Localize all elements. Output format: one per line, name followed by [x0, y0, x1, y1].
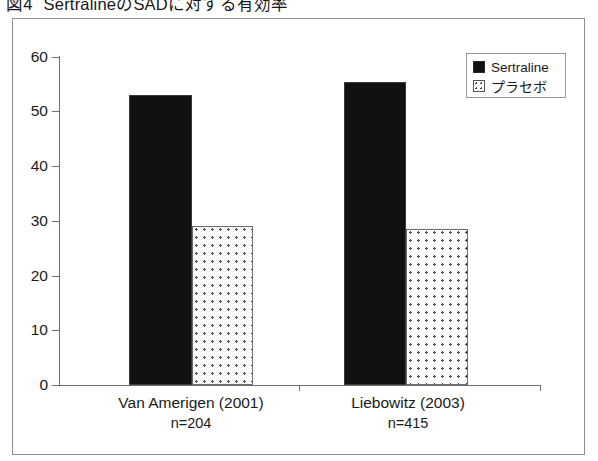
- y-tick-label-30: 30: [4, 212, 48, 230]
- y-tick-30: [52, 221, 60, 222]
- legend-item-sertraline: Sertraline: [473, 58, 559, 76]
- y-tick-label-50: 50: [4, 102, 48, 120]
- chart-legend: Sertraline プラセボ: [466, 53, 566, 98]
- y-tick-label-40: 40: [4, 157, 48, 175]
- y-tick-0: [52, 385, 60, 386]
- x-axis-line: [59, 385, 541, 386]
- x-tick-center: [299, 385, 300, 391]
- bar-van-amerigen-placebo: [192, 226, 253, 385]
- x-tick-right: [540, 385, 541, 391]
- y-tick-label-0: 0: [4, 376, 48, 394]
- y-tick-60: [52, 57, 60, 58]
- y-tick-label-10: 10: [4, 321, 48, 339]
- x-category-van-amerigen: Van Amerigen (2001) n=204: [95, 393, 287, 433]
- legend-swatch-solid-square-icon: [473, 61, 485, 73]
- legend-label-placebo: プラセボ: [491, 76, 547, 96]
- y-tick-10: [52, 330, 60, 331]
- legend-label-sertraline: Sertraline: [491, 60, 549, 75]
- x-category-liebowitz-n: n=415: [318, 413, 498, 433]
- x-category-van-amerigen-name: Van Amerigen (2001): [95, 393, 287, 413]
- figure-caption-number: 図4: [6, 0, 33, 13]
- figure-caption-title: SertralineのSADに対する有効率: [44, 0, 289, 13]
- y-tick-50: [52, 111, 60, 112]
- legend-item-placebo: プラセボ: [473, 77, 559, 95]
- y-tick-label-20: 20: [4, 267, 48, 285]
- x-category-van-amerigen-n: n=204: [95, 413, 287, 433]
- legend-swatch-dotted-square-icon: [473, 80, 485, 92]
- x-category-liebowitz-name: Liebowitz (2003): [318, 393, 498, 413]
- bar-liebowitz-sertraline: [344, 82, 406, 385]
- x-category-liebowitz: Liebowitz (2003) n=415: [318, 393, 498, 433]
- bar-liebowitz-placebo: [406, 229, 468, 385]
- figure-caption: 図4SertralineのSADに対する有効率: [6, 0, 288, 15]
- y-tick-40: [52, 166, 60, 167]
- y-tick-label-60: 60: [4, 48, 48, 66]
- y-tick-20: [52, 276, 60, 277]
- bar-van-amerigen-sertraline: [129, 95, 192, 385]
